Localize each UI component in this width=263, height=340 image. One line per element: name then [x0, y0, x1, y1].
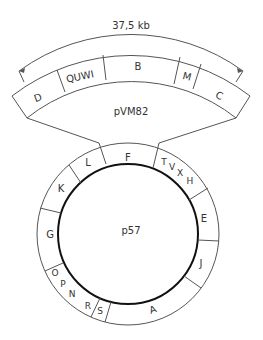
segment-O: O	[51, 268, 58, 278]
segment-T: T	[160, 157, 167, 167]
segment-H: H	[187, 176, 194, 186]
segment-G: G	[46, 229, 54, 240]
connector-right	[159, 118, 236, 143]
connector-left	[27, 118, 99, 143]
segment-J: J	[199, 258, 203, 269]
segment-N: N	[69, 289, 76, 299]
segment-F: F	[125, 152, 131, 163]
segment-K: K	[58, 183, 65, 194]
segment-S: S	[97, 306, 103, 316]
plasmid-pvm82-band: D QUWI B M C pVM82	[12, 55, 250, 118]
segment-B: B	[135, 61, 142, 72]
plasmid-p57-label: p57	[121, 225, 140, 236]
plasmid-p57-ring: F T V X H E J A S R N P O G K L p57	[37, 143, 219, 325]
segment-R: R	[85, 301, 91, 311]
plasmid-pvm82-label: pVM82	[114, 106, 149, 117]
segment-P: P	[60, 279, 66, 289]
scale-label: 37,5 kb	[112, 20, 150, 31]
plasmid-map-diagram: 37,5 kb D QUWI B M C pVM82	[0, 0, 263, 340]
segment-L: L	[85, 157, 91, 168]
segment-X: X	[177, 168, 183, 178]
segment-V: V	[169, 162, 176, 172]
segment-E: E	[201, 213, 207, 224]
